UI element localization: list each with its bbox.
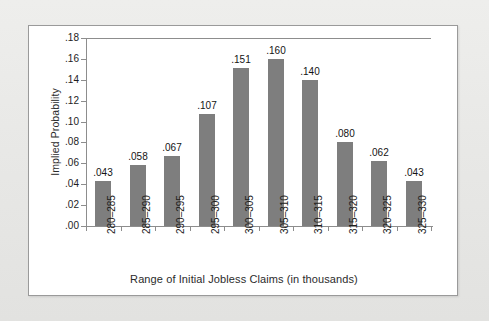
x-axis-category-label: 300–305: [245, 195, 255, 234]
x-axis-tick: [431, 226, 432, 231]
y-axis-tick-label: .00: [49, 221, 79, 231]
y-axis-tick-label-text: .12: [53, 96, 79, 106]
y-axis-tick-label-text: .18: [53, 33, 79, 43]
x-axis-category-label: 280–285: [107, 195, 117, 234]
y-axis-tick-label-text: .14: [53, 75, 79, 85]
bar-value-label: .067: [156, 143, 188, 153]
bar-value-label: .043: [87, 168, 119, 178]
y-axis-tick-label-text: .00: [53, 221, 79, 231]
x-axis-category-label: 290–295: [176, 195, 186, 234]
x-axis-tick: [190, 226, 191, 231]
bar-value-label: .058: [122, 152, 154, 162]
bar-value-label: .080: [329, 129, 361, 139]
x-axis-category-label: 315–320: [349, 195, 359, 234]
x-axis-tick: [328, 226, 329, 231]
chart-panel: Implied Probability .00.02.04.06.08.10.1…: [28, 25, 458, 296]
bar-value-label: .043: [398, 168, 430, 178]
figure-root: Implied Probability .00.02.04.06.08.10.1…: [0, 0, 489, 321]
y-axis-tick-label: .18: [49, 33, 79, 43]
y-axis-tick-label: .02: [49, 200, 79, 210]
x-axis-tick: [86, 226, 87, 231]
y-axis-tick-label-text: .02: [53, 200, 79, 210]
x-axis-category-label: 305–310: [280, 195, 290, 234]
y-axis-tick-label: .08: [49, 137, 79, 147]
y-axis-tick-label: .12: [49, 96, 79, 106]
y-axis-title: Implied Probability: [49, 42, 65, 222]
y-axis-tick-label-text: .06: [53, 158, 79, 168]
x-axis-category-label: 320–325: [383, 195, 393, 234]
bar-value-label: .062: [363, 148, 395, 158]
x-axis-tick: [155, 226, 156, 231]
y-axis-tick-label: .16: [49, 54, 79, 64]
x-axis-tick: [362, 226, 363, 231]
x-axis-tick: [224, 226, 225, 231]
bar-value-label: .140: [294, 67, 326, 77]
y-axis-tick-label-text: .10: [53, 117, 79, 127]
y-axis-tick-label-text: .04: [53, 179, 79, 189]
y-axis-tick-label: .10: [49, 117, 79, 127]
x-axis-category-label: 325–330: [418, 195, 428, 234]
x-axis-tick: [121, 226, 122, 231]
bar-value-label: .151: [225, 55, 257, 65]
y-axis-tick-label-text: .16: [53, 54, 79, 64]
x-axis-tick: [293, 226, 294, 231]
x-axis-category-label: 295–300: [211, 195, 221, 234]
y-axis-tick-label: .04: [49, 179, 79, 189]
bar-value-label: .160: [260, 46, 292, 56]
y-axis-tick-label-text: .08: [53, 137, 79, 147]
y-axis-tick-label: .06: [49, 158, 79, 168]
y-axis-tick-label: .14: [49, 75, 79, 85]
bar-value-label: .107: [191, 101, 223, 111]
x-axis-tick: [397, 226, 398, 231]
x-axis-category-label: 285–290: [142, 195, 152, 234]
x-axis-tick: [259, 226, 260, 231]
x-axis-title: Range of Initial Jobless Claims (in thou…: [29, 273, 459, 285]
x-axis-category-label: 310–315: [314, 195, 324, 234]
